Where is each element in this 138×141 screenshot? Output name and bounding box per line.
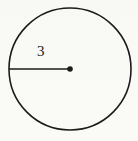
diagram-canvas (0, 0, 138, 141)
radius-length-label: 3 (37, 44, 45, 59)
center-point-dot (67, 66, 73, 72)
circle-diagram: 3 (0, 0, 138, 141)
